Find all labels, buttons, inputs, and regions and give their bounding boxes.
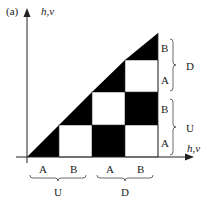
cell-diag-1 xyxy=(59,92,92,125)
x-cell-label: B xyxy=(137,163,144,175)
cell-0-1 xyxy=(59,125,92,157)
cell-diag-3 xyxy=(125,33,158,60)
y-cell-label: B xyxy=(161,42,168,54)
panel-label: (a) xyxy=(6,5,19,18)
cell-diag-0 xyxy=(27,125,59,157)
y-axis-label: h,v xyxy=(41,5,54,17)
x-cell-label: B xyxy=(70,163,77,175)
y-group-label: U xyxy=(186,122,194,134)
y-group-label: D xyxy=(186,60,194,72)
y-cell-label: A xyxy=(161,137,169,149)
cell-0-2 xyxy=(92,125,125,157)
x-axis-label: h,v xyxy=(187,142,200,154)
cell-0-3 xyxy=(125,125,158,157)
x-group-label: D xyxy=(121,186,129,198)
cell-1-3 xyxy=(125,92,158,125)
x-cell-label: A xyxy=(106,163,114,175)
y-axis-arrow-icon xyxy=(24,8,31,17)
x-cell-label: A xyxy=(39,163,47,175)
cell-1-2 xyxy=(92,92,125,125)
checkerboard-grid xyxy=(27,33,158,157)
x-group-label: U xyxy=(54,186,62,198)
y-cell-label: A xyxy=(161,74,169,86)
diagram: (a) h,v h,v A B A B U D A B A B U D xyxy=(0,0,212,204)
y-brace-d xyxy=(170,39,176,91)
x-brace-u xyxy=(30,175,86,181)
x-brace-d xyxy=(97,175,153,181)
y-brace-u xyxy=(170,99,176,155)
x-axis-arrow-icon xyxy=(185,154,194,161)
cell-diag-2 xyxy=(92,60,125,92)
cell-2-3 xyxy=(125,60,158,92)
y-cell-label: B xyxy=(161,103,168,115)
